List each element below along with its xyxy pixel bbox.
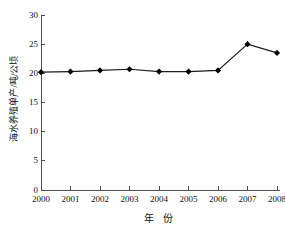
x-axis-title: 年 份 — [40, 210, 280, 225]
axis-tick-marks — [41, 15, 277, 190]
data-point-marker — [97, 67, 103, 73]
data-point-markers — [38, 41, 280, 75]
series-line-haishui-yangzhi — [41, 44, 277, 72]
data-point-marker — [126, 66, 132, 72]
data-point-marker — [38, 69, 44, 75]
data-point-marker — [185, 68, 191, 74]
data-point-marker — [274, 50, 280, 56]
data-series-line — [41, 44, 277, 72]
data-point-marker — [67, 68, 73, 74]
plot-area — [0, 0, 285, 235]
chart-container: 海水养殖单产/吨/公顷 051015202530 200020012002200… — [0, 0, 285, 235]
data-point-marker — [156, 68, 162, 74]
axis-lines — [41, 15, 280, 190]
